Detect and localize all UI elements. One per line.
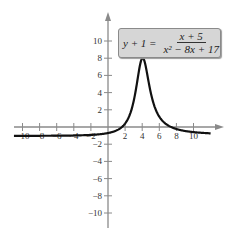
y-tick-label: 8 — [98, 53, 103, 63]
y-tick-label: −2 — [92, 139, 102, 149]
x-axis-arrow-icon — [215, 124, 224, 130]
x-tick-label: 2 — [123, 131, 128, 141]
y-tick-label: −8 — [92, 191, 102, 201]
y-tick-label: 10 — [93, 36, 103, 46]
equation-denominator: x² − 8x + 17 — [160, 43, 221, 55]
x-tick-label: 4 — [140, 131, 145, 141]
x-tick-label: 8 — [174, 131, 179, 141]
equation-lhs: y + 1 = — [123, 37, 156, 49]
y-axis-arrow-icon — [105, 12, 111, 21]
y-tick-label: 6 — [98, 70, 103, 80]
y-tick-label: −10 — [88, 208, 103, 218]
equation-numerator: x + 5 — [177, 30, 206, 43]
equation: y + 1 = x + 5 x² − 8x + 17 — [123, 29, 222, 56]
y-tick-label: 2 — [98, 105, 103, 115]
y-tick-label: −6 — [92, 174, 102, 184]
function-curve — [14, 58, 211, 136]
y-tick-label: −4 — [92, 156, 102, 166]
y-tick-label: 4 — [98, 88, 103, 98]
equation-fraction: x + 5 x² − 8x + 17 — [160, 30, 221, 55]
x-tick-label: 6 — [157, 131, 162, 141]
